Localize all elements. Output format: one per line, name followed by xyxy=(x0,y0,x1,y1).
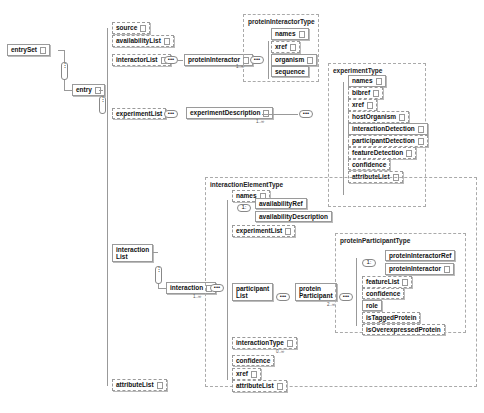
connector xyxy=(99,90,103,91)
node-proteinInteractor[interactable]: proteinInteractor xyxy=(385,263,454,275)
node-isOverexpressedProtein[interactable]: isOverexpressedProtein xyxy=(362,324,445,335)
expand-icon xyxy=(402,279,408,286)
xml-schema-diagram: entrySet ⋮ entry ⋮ source availabilityLi… xyxy=(0,0,484,413)
sequence-compositor-icon: ⋮ xyxy=(155,266,162,284)
node-participantDetection[interactable]: participantDetection xyxy=(348,135,428,147)
node-interactorList[interactable]: interactorList xyxy=(112,54,171,66)
expand-icon xyxy=(418,126,424,133)
node-availabilityRef[interactable]: availabilityRef xyxy=(255,198,307,209)
connector xyxy=(268,41,269,79)
node-featureDetection[interactable]: featureDetection xyxy=(348,147,416,159)
node-xref[interactable]: xref xyxy=(232,368,261,380)
expand-icon xyxy=(307,57,313,64)
sequence-compositor-icon: ••• xyxy=(276,293,290,301)
expand-icon xyxy=(290,44,296,51)
expand-icon xyxy=(40,47,46,54)
node-availabilityDescription[interactable]: availabilityDescription xyxy=(255,211,332,222)
connector xyxy=(356,258,357,326)
node-interactionType[interactable]: interactionType xyxy=(232,337,297,349)
connector xyxy=(64,80,65,90)
node-bibref[interactable]: bibref xyxy=(348,87,383,99)
expand-icon xyxy=(164,38,170,45)
node-names[interactable]: names xyxy=(271,28,309,40)
choice-compositor-icon: 1: xyxy=(362,259,376,267)
sequence-compositor-icon: ⋮ xyxy=(99,96,106,114)
sequence-compositor-icon: ••• xyxy=(164,56,178,64)
node-entrySet[interactable]: entrySet xyxy=(7,44,50,56)
node-xref[interactable]: xref xyxy=(271,41,300,53)
node-experimentDescription[interactable]: experimentDescription xyxy=(186,107,273,119)
connector xyxy=(227,200,228,380)
expand-icon xyxy=(399,114,405,121)
node-source[interactable]: source xyxy=(112,22,150,34)
expand-icon xyxy=(418,138,424,145)
connector xyxy=(178,60,183,61)
expand-icon xyxy=(251,371,257,378)
node-role[interactable]: role xyxy=(362,300,382,311)
sequence-compositor-icon: ⋮ xyxy=(61,62,68,80)
expand-icon xyxy=(367,102,373,109)
sequence-compositor-icon: ••• xyxy=(299,110,313,118)
node-confidence[interactable]: confidence xyxy=(232,355,274,366)
node-sequence[interactable]: sequence xyxy=(271,66,309,77)
node-featureList[interactable]: featureList xyxy=(362,276,412,288)
expand-icon xyxy=(140,25,146,32)
cardinality-label: 2..∞ xyxy=(327,302,335,307)
choice-compositor-icon: 1: xyxy=(237,204,251,212)
node-confidence[interactable]: confidence xyxy=(362,288,404,299)
node-organism[interactable]: organism xyxy=(271,54,317,66)
expand-icon xyxy=(277,383,283,390)
node-xref[interactable]: xref xyxy=(348,99,377,111)
node-confidence[interactable]: confidence xyxy=(348,159,390,170)
node-isTaggedProtein[interactable]: isTaggedProtein xyxy=(362,312,420,323)
node-availabilityList[interactable]: availabilityList xyxy=(112,35,174,47)
expand-icon xyxy=(287,340,293,347)
connector xyxy=(152,252,158,253)
expand-icon xyxy=(406,150,412,157)
expand-icon xyxy=(157,382,163,389)
node-experimentList[interactable]: experimentList xyxy=(232,225,295,237)
sequence-compositor-icon: ••• xyxy=(164,110,178,118)
expand-icon xyxy=(376,78,382,85)
node-interactionDetection[interactable]: interactionDetection xyxy=(348,123,428,135)
node-interactionList[interactable]: interaction List xyxy=(112,244,153,262)
connector xyxy=(64,90,72,91)
cardinality-label: 0..∞ xyxy=(276,349,284,354)
node-proteinInteractorRef[interactable]: proteinInteractorRef xyxy=(385,250,455,261)
expand-icon xyxy=(299,31,305,38)
expand-icon xyxy=(444,266,450,273)
connector xyxy=(158,288,166,289)
cardinality-label: 1..∞ xyxy=(256,119,264,124)
cardinality-label: 1..∞ xyxy=(193,294,201,299)
node-experimentList[interactable]: experimentList xyxy=(112,108,166,119)
expand-icon xyxy=(285,228,291,235)
node-attributeList[interactable]: attributeList xyxy=(112,379,167,391)
node-proteinParticipant[interactable]: protein Participant xyxy=(295,283,337,301)
connector xyxy=(107,28,108,386)
node-hostOrganism[interactable]: hostOrganism xyxy=(348,111,409,123)
node-attributeList[interactable]: attributeList xyxy=(232,380,287,392)
expand-icon xyxy=(373,90,379,97)
node-names[interactable]: names xyxy=(348,75,386,87)
connector xyxy=(262,114,298,115)
node-participantList[interactable]: participant List xyxy=(232,283,273,301)
